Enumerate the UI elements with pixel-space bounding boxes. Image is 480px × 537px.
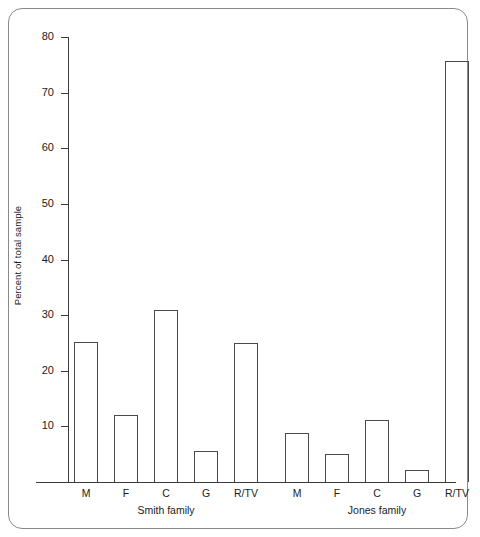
- bar-jones-c: [365, 420, 389, 482]
- category-label: G: [186, 487, 226, 499]
- y-tick-mark: [61, 37, 68, 38]
- y-tick-label: 10: [18, 420, 54, 431]
- y-tick-mark: [61, 148, 68, 149]
- y-tick-mark: [61, 371, 68, 372]
- y-tick-label: 80: [18, 31, 54, 42]
- category-label: F: [317, 487, 357, 499]
- y-tick-label: 20: [18, 365, 54, 376]
- y-tick-label: 70: [18, 87, 54, 98]
- y-tick-mark: [61, 260, 68, 261]
- y-axis-line: [68, 37, 69, 483]
- category-label: M: [66, 487, 106, 499]
- bar-jones-m: [285, 433, 309, 482]
- y-tick-mark: [61, 315, 68, 316]
- y-tick-mark: [61, 204, 68, 205]
- y-tick-mark: [61, 93, 68, 94]
- category-label: C: [146, 487, 186, 499]
- figure-canvas: Percent of total sample 1020304050607080…: [0, 0, 480, 537]
- bar-smith-g: [194, 451, 218, 482]
- bar-jones-f: [325, 454, 349, 482]
- group-label-jones: Jones family: [307, 504, 447, 516]
- category-label: M: [277, 487, 317, 499]
- y-tick-label: 40: [18, 254, 54, 265]
- bar-jones-rtv: [445, 61, 469, 482]
- plot-area: Percent of total sample 1020304050607080…: [0, 0, 480, 537]
- category-label: C: [357, 487, 397, 499]
- bar-smith-rtv: [234, 343, 258, 482]
- y-tick-label: 60: [18, 142, 54, 153]
- category-label: R/TV: [226, 487, 266, 499]
- category-label: F: [106, 487, 146, 499]
- bar-smith-f: [114, 415, 138, 482]
- bar-jones-g: [405, 470, 429, 482]
- x-axis-line: [36, 482, 456, 483]
- bar-smith-m: [74, 342, 98, 482]
- y-tick-label: 50: [18, 198, 54, 209]
- group-label-smith: Smith family: [96, 504, 236, 516]
- y-tick-mark: [61, 426, 68, 427]
- bar-smith-c: [154, 310, 178, 482]
- category-label: R/TV: [437, 487, 477, 499]
- y-tick-label: 30: [18, 309, 54, 320]
- category-label: G: [397, 487, 437, 499]
